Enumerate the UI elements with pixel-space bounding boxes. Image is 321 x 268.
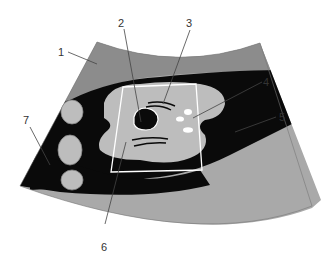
label-4: 4 — [263, 76, 269, 88]
label-7: 7 — [23, 114, 29, 126]
cyst — [134, 108, 158, 130]
ultrasound-diagram: 1 2 3 4 5 6 7 — [0, 0, 321, 268]
label-5: 5 — [279, 111, 285, 123]
label-3: 3 — [186, 17, 192, 29]
label-2: 2 — [118, 17, 124, 29]
label-6: 6 — [101, 241, 107, 253]
label-1: 1 — [58, 46, 64, 58]
bowel-loops — [58, 100, 83, 190]
